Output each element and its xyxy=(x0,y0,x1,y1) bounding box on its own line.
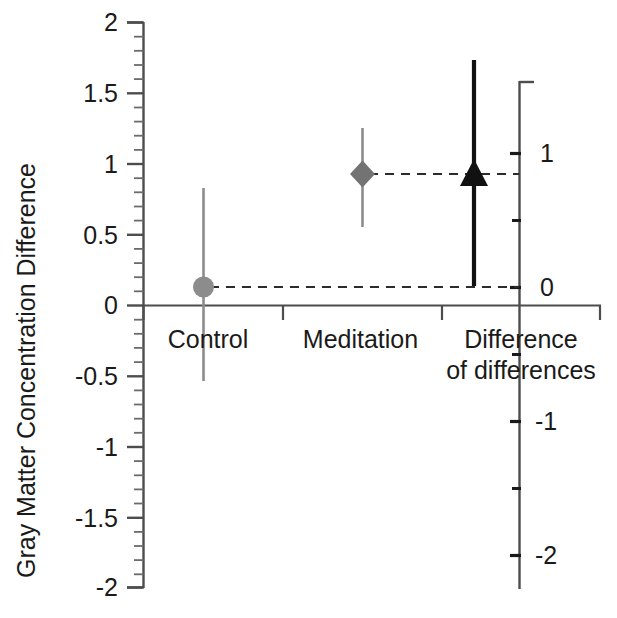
category-label-control: Control xyxy=(138,325,278,353)
y-axis-title: Gray Matter Concentration Difference xyxy=(14,163,39,578)
category-label-difference-line2: of differences xyxy=(430,356,612,384)
left-axis xyxy=(127,22,144,588)
marker-circle-control xyxy=(193,277,214,298)
right-axis-tick-label-neg2: -2 xyxy=(535,543,557,568)
category-label-meditation: Meditation xyxy=(278,325,443,353)
left-axis-tick-label-0: 0 xyxy=(38,293,118,318)
left-axis-tick-label-2: 2 xyxy=(38,10,118,35)
right-axis-tick-label-neg1: -1 xyxy=(535,409,557,434)
marker-triangle-difference xyxy=(460,159,488,186)
right-axis-tick-label-1: 1 xyxy=(540,141,554,166)
category-label-difference-line1: Difference xyxy=(437,325,605,353)
x-axis xyxy=(144,306,602,321)
figure-panel: 2 1.5 1 0.5 0 -0.5 -1 -1.5 -2 1 0 -1 -2 … xyxy=(0,0,617,618)
left-axis-tick-label-1: 1 xyxy=(38,152,118,177)
left-axis-tick-label-neg1: -1 xyxy=(28,435,118,460)
left-axis-tick-label-1_5: 1.5 xyxy=(18,81,118,106)
right-axis-tick-label-0: 0 xyxy=(540,275,554,300)
datapoint-meditation[interactable] xyxy=(350,128,375,227)
left-axis-tick-label-neg2: -2 xyxy=(28,575,118,600)
marker-diamond-meditation xyxy=(350,161,375,188)
